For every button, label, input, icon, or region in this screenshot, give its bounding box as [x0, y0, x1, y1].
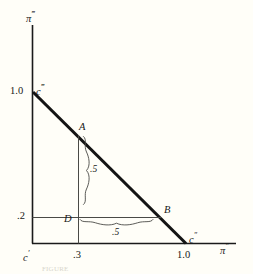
- point-label-c-triple-prime: c‴: [36, 84, 44, 97]
- x-axis-label-primes: ″: [225, 242, 228, 251]
- c-double-prime-primes: ″: [194, 231, 197, 240]
- budget-line: [33, 92, 186, 244]
- x-tick-label-0-3: .3: [73, 250, 81, 261]
- horizontal-brace-label: .5: [112, 228, 119, 238]
- x-axis-label: π″: [220, 243, 228, 256]
- point-label-a: A: [79, 122, 85, 133]
- y-axis-label: π‴: [26, 11, 34, 24]
- point-label-b: B: [164, 205, 170, 216]
- figure-container: π‴ π″ 1.0 .2 .3 1.0 c‴ A B D c″ c′ .5 .5…: [0, 0, 253, 274]
- point-label-d: D: [64, 214, 72, 225]
- point-label-c-double-prime: c″: [189, 232, 197, 245]
- vertical-brace-label: .5: [90, 165, 97, 175]
- y-tick-label-0-2: .2: [17, 211, 25, 222]
- plot-canvas: [0, 0, 253, 274]
- c-triple-prime-primes: ‴: [41, 83, 44, 92]
- c-prime-primes: ′: [28, 249, 29, 258]
- horizontal-brace: [80, 220, 153, 225]
- point-label-c-prime: c′: [23, 250, 29, 263]
- y-axis-label-primes: ‴: [31, 10, 34, 19]
- x-tick-label-1-0: 1.0: [177, 250, 190, 261]
- figure-caption: FIGURE: [42, 265, 68, 273]
- y-tick-label-1-0: 1.0: [10, 86, 23, 97]
